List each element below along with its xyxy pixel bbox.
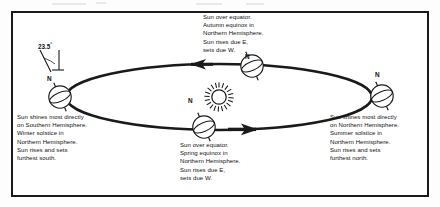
north-pole-label-bottom: N: [188, 97, 193, 104]
scan-artifact: [246, 3, 264, 5]
scan-artifact: [196, 3, 222, 5]
tilt-angle-label: 23.5°: [38, 42, 52, 50]
scan-artifact: [52, 3, 86, 5]
caption-autumn-equinox: Sun over equator. Autumn equinox in Nort…: [203, 13, 264, 54]
caption-summer-solstice: Sun shines most directly on Northern Hem…: [330, 113, 399, 162]
north-pole-label-top: N: [245, 53, 250, 60]
north-pole-label-right: N: [375, 71, 380, 78]
diagram-canvas: 23.5° N N N N Sun over equator. Autumn e…: [0, 0, 440, 207]
north-pole-label-left: N: [47, 75, 52, 82]
caption-spring-equinox: Sun over equator. Spring equinox in Nort…: [180, 141, 241, 182]
scan-artifact: [96, 2, 106, 4]
caption-winter-solstice: Sun shines most directly on Southern Hem…: [17, 113, 87, 162]
